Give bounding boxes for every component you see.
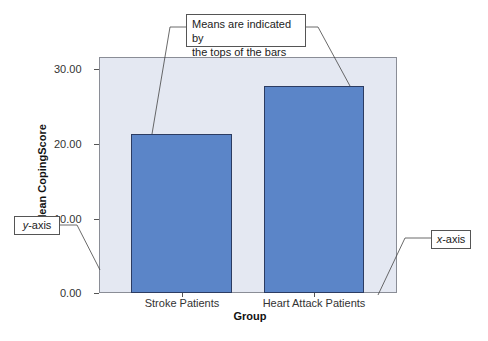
callout-x-axis: x-axis [431,230,471,249]
callout-x-axis-text: -axis [442,233,465,245]
callout-means: Means are indicated by the tops of the b… [186,14,306,47]
callout-means-line1: Means are indicated by [192,17,300,45]
callout-y-axis-text: -axis [28,219,51,231]
callout-means-line2: the tops of the bars [192,45,300,59]
callout-y-axis: y-axis [14,216,60,235]
